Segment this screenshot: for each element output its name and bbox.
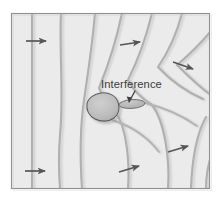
- obstacle-blob: [87, 93, 119, 121]
- interference-figure: Interference: [0, 0, 222, 202]
- figure-canvas: Interference: [0, 0, 222, 202]
- obstacle-group: [87, 93, 119, 121]
- interference-label: Interference: [101, 78, 162, 90]
